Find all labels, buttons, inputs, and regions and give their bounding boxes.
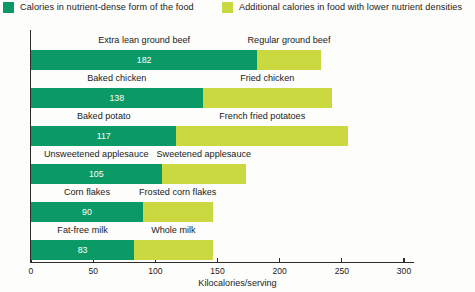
stacked-bar[interactable]: 182 [31, 50, 321, 70]
nutrient-dense-food-label: Baked chicken [87, 73, 146, 83]
nutrient-dense-food-label: Unsweetened applesauce [44, 149, 149, 159]
bar-row-labels: Unsweetened applesauceSweetened applesau… [0, 149, 475, 163]
x-axis-tick-label: 300 [397, 266, 411, 276]
bar-row-labels: Baked potatoFrench fried potatoes [0, 111, 475, 125]
bar-row: Extra lean ground beefRegular ground bee… [0, 35, 475, 70]
stacked-bar[interactable]: 90 [31, 202, 213, 222]
stacked-bar[interactable]: 117 [31, 126, 348, 146]
legend-item-additional-calories[interactable]: Additional calories in food with lower n… [222, 2, 462, 13]
bar-row-labels: Fat-free milkWhole milk [0, 225, 475, 239]
bar-segment-nutrient-dense[interactable] [31, 202, 143, 222]
lower-density-food-label: Whole milk [151, 225, 195, 235]
legend-swatch-icon [222, 2, 233, 13]
bar-row-labels: Corn flakesFrosted corn flakes [0, 187, 475, 201]
x-axis-tick-label: 250 [335, 266, 349, 276]
bar-segment-nutrient-dense[interactable] [31, 88, 203, 108]
stacked-bar[interactable]: 105 [31, 164, 246, 184]
bar-row: Corn flakesFrosted corn flakes90 [0, 187, 475, 222]
lower-density-food-label: Fried chicken [240, 73, 294, 83]
x-axis-tick-label: 50 [88, 266, 98, 276]
bar-row-labels: Extra lean ground beefRegular ground bee… [0, 35, 475, 49]
plot-area: 050100150200250300 Extra lean ground bee… [0, 22, 475, 292]
legend-item-nutrient-dense[interactable]: Calories in nutrient-dense form of the f… [3, 2, 194, 13]
nutrient-dense-food-label: Corn flakes [64, 187, 110, 197]
bar-segment-additional-calories[interactable] [162, 164, 247, 184]
bar-segment-additional-calories[interactable] [134, 240, 212, 260]
chart-legend: Calories in nutrient-dense form of the f… [0, 0, 475, 22]
bar-row: Baked potatoFrench fried potatoes117 [0, 111, 475, 146]
stacked-bar[interactable]: 138 [31, 88, 332, 108]
bar-row: Fat-free milkWhole milk83 [0, 225, 475, 260]
legend-item-label: Calories in nutrient-dense form of the f… [20, 2, 194, 13]
legend-item-label: Additional calories in food with lower n… [239, 2, 462, 13]
bar-segment-nutrient-dense[interactable] [31, 240, 134, 260]
calorie-comparison-chart: Calories in nutrient-dense form of the f… [0, 0, 475, 292]
lower-density-food-label: French fried potatoes [219, 111, 305, 121]
nutrient-dense-food-label: Extra lean ground beef [98, 35, 190, 45]
x-axis-tick-label: 0 [29, 266, 34, 276]
bar-segment-additional-calories[interactable] [176, 126, 348, 146]
x-axis-tick-label: 150 [210, 266, 224, 276]
bar-segment-additional-calories[interactable] [257, 50, 320, 70]
bar-segment-additional-calories[interactable] [203, 88, 332, 108]
x-axis-line [30, 262, 414, 263]
nutrient-dense-food-label: Baked potato [77, 111, 131, 121]
bar-segment-additional-calories[interactable] [143, 202, 213, 222]
bar-segment-nutrient-dense[interactable] [31, 50, 257, 70]
stacked-bar[interactable]: 83 [31, 240, 213, 260]
x-axis-tick-label: 200 [272, 266, 286, 276]
lower-density-food-label: Frosted corn flakes [139, 187, 216, 197]
bar-row: Baked chickenFried chicken138 [0, 73, 475, 108]
bar-segment-nutrient-dense[interactable] [31, 126, 176, 146]
bar-segment-nutrient-dense[interactable] [31, 164, 162, 184]
bar-row: Unsweetened applesauceSweetened applesau… [0, 149, 475, 184]
nutrient-dense-food-label: Fat-free milk [57, 225, 108, 235]
x-axis-tick-label: 100 [148, 266, 162, 276]
lower-density-food-label: Regular ground beef [248, 35, 331, 45]
lower-density-food-label: Sweetened applesauce [157, 149, 252, 159]
x-axis-title: Kilocalories/serving [0, 278, 475, 288]
legend-swatch-icon [3, 2, 14, 13]
bar-row-labels: Baked chickenFried chicken [0, 73, 475, 87]
